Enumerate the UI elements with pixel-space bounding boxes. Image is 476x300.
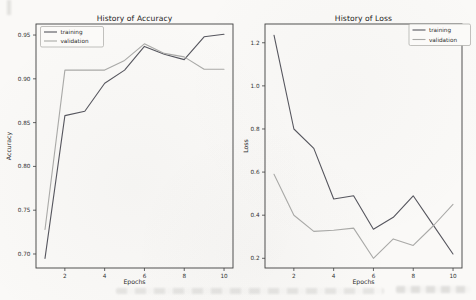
series-line-validation xyxy=(274,174,453,258)
x-tick-label: 10 xyxy=(449,273,457,279)
x-tick-label: 4 xyxy=(332,273,336,279)
series-line-training xyxy=(45,34,224,258)
x-tick-label: 4 xyxy=(103,273,107,279)
y-tick-label: 1.2 xyxy=(250,40,259,46)
x-tick-label: 10 xyxy=(220,273,228,279)
legend-label-training: training xyxy=(429,27,451,34)
axes-layer: 1.21.00.80.60.40.2246810 xyxy=(250,24,462,279)
figure-svg: History of Accuracy Accuracy Epochs 0.95… xyxy=(0,0,476,300)
y-tick-label: 0.85 xyxy=(18,120,31,126)
x-tick-label: 2 xyxy=(63,273,67,279)
figure-canvas: History of Accuracy Accuracy Epochs 0.95… xyxy=(0,0,476,300)
y-tick-label: 0.75 xyxy=(18,207,31,213)
x-tick-label: 8 xyxy=(182,273,186,279)
y-tick-label: 0.70 xyxy=(18,251,31,257)
axes-frame xyxy=(265,24,462,268)
legend-label-validation: validation xyxy=(429,37,457,43)
series-line-validation xyxy=(45,44,224,230)
y-tick-label: 0.2 xyxy=(250,255,259,261)
axes-layer: 0.950.900.850.800.750.70246810 xyxy=(18,24,233,279)
y-tick-label: 0.8 xyxy=(250,126,259,132)
accuracy-chart: History of Accuracy Accuracy Epochs 0.95… xyxy=(5,14,233,286)
x-tick-label: 6 xyxy=(143,273,147,279)
y-tick-label: 1.0 xyxy=(250,83,259,89)
x-axis-label: Epochs xyxy=(352,278,374,286)
y-tick-label: 0.4 xyxy=(250,212,259,218)
legend-label-validation: validation xyxy=(61,38,89,44)
loss-chart: History of Loss Loss Epochs 1.21.00.80.6… xyxy=(242,14,471,286)
x-tick-label: 2 xyxy=(292,273,296,279)
y-tick-label: 0.80 xyxy=(18,163,31,169)
chart-title: History of Loss xyxy=(335,14,392,23)
y-axis-label: Accuracy xyxy=(5,132,13,161)
legend: training validation xyxy=(409,24,471,46)
x-axis-label: Epochs xyxy=(123,278,145,286)
legend: training validation xyxy=(41,27,104,48)
x-tick-label: 6 xyxy=(372,273,376,279)
y-axis-label: Loss xyxy=(242,139,249,153)
x-tick-label: 8 xyxy=(411,273,415,279)
y-tick-label: 0.95 xyxy=(18,32,31,38)
y-tick-label: 0.6 xyxy=(250,169,259,175)
legend-label-training: training xyxy=(61,29,83,36)
chart-title: History of Accuracy xyxy=(97,14,173,23)
y-tick-label: 0.90 xyxy=(18,76,31,82)
axes-frame xyxy=(36,24,233,268)
